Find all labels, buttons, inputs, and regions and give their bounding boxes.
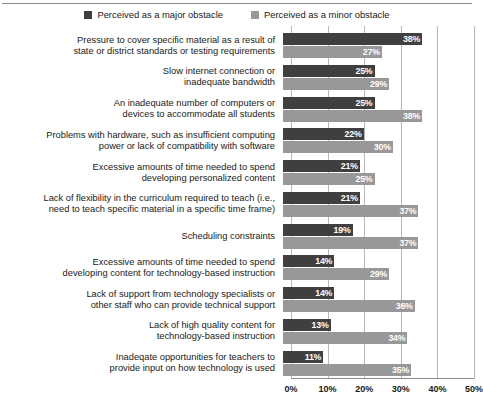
category-label: Scheduling constraints <box>0 231 283 242</box>
bar-value-label: 35% <box>392 365 411 375</box>
x-tick-label: 40% <box>428 384 446 394</box>
bar-value-label: 25% <box>355 66 374 76</box>
legend-entry-minor: Perceived as a minor obstacle <box>251 10 390 20</box>
bar-value-label: 14% <box>315 288 334 298</box>
x-tick-label: 20% <box>355 384 373 394</box>
category-label: Lack of support from technology speciali… <box>0 289 283 311</box>
category-label: Lack of flexibility in the curriculum re… <box>0 193 283 215</box>
bar-value-label: 21% <box>341 193 360 203</box>
bar-major-obstacle: 14% <box>283 255 334 267</box>
category-label-line: Lack of support from technology speciali… <box>0 289 275 300</box>
bar-major-obstacle: 25% <box>283 97 375 109</box>
category-label: Excessive amounts of time needed to spen… <box>0 162 283 184</box>
category-label-line: provide input on how technology is used <box>0 363 275 374</box>
category-label: An inadequate number of computers ordevi… <box>0 98 283 120</box>
category-label: Inadeqate opportunities for teachers top… <box>0 352 283 374</box>
legend-swatch-minor-icon <box>251 11 259 19</box>
bar-value-label: 38% <box>403 34 422 44</box>
row-bars: 11%35% <box>283 342 466 385</box>
category-label-line: Excessive amounts of time needed to spen… <box>0 257 275 268</box>
legend-label-minor: Perceived as a minor obstacle <box>264 10 390 20</box>
bar-major-obstacle: 21% <box>283 160 360 172</box>
category-label: Pressure to cover specific material as a… <box>0 35 283 57</box>
bar-value-label: 14% <box>315 256 334 266</box>
category-label-line: Pressure to cover specific material as a… <box>0 35 275 46</box>
bar-minor-obstacle: 35% <box>283 364 411 376</box>
category-label: Excessive amounts of time needed to spen… <box>0 257 283 279</box>
chart-legend: Perceived as a major obstacle Perceived … <box>0 8 474 22</box>
bar-value-label: 21% <box>341 161 360 171</box>
bar-major-obstacle: 19% <box>283 224 353 236</box>
category-label-line: Inadeqate opportunities for teachers to <box>0 352 275 363</box>
legend-entry-major: Perceived as a major obstacle <box>84 10 223 20</box>
bar-value-label: 11% <box>305 352 324 362</box>
category-label-line: Excessive amounts of time needed to spen… <box>0 162 275 173</box>
bar-value-label: 25% <box>355 98 374 108</box>
category-label-line: Slow internet connection or <box>0 66 275 77</box>
bar-major-obstacle: 38% <box>283 33 422 45</box>
legend-label-major: Perceived as a major obstacle <box>97 10 223 20</box>
top-divider-rule <box>2 3 472 4</box>
x-axis-tick-labels: 0%10%20%30%40%50% <box>291 384 474 398</box>
bar-value-label: 22% <box>345 129 364 139</box>
category-label-line: Scheduling constraints <box>0 231 275 242</box>
bar-major-obstacle: 14% <box>283 287 334 299</box>
gridline <box>474 26 475 379</box>
bar-major-obstacle: 22% <box>283 128 364 140</box>
category-label: Lack of high quality content fortechnolo… <box>0 320 283 342</box>
category-label: Problems with hardware, such as insuffic… <box>0 130 283 152</box>
bar-major-obstacle: 11% <box>283 351 323 363</box>
category-label-line: An inadequate number of computers or <box>0 98 275 109</box>
category-label-line: Problems with hardware, such as insuffic… <box>0 130 275 141</box>
x-tick-label: 50% <box>465 384 483 394</box>
x-tick-label: 30% <box>392 384 410 394</box>
bar-value-label: 19% <box>334 225 353 235</box>
category-label-line: Lack of flexibility in the curriculum re… <box>0 193 275 204</box>
legend-swatch-major-icon <box>84 11 92 19</box>
x-tick-label: 0% <box>284 384 297 394</box>
category-label-line: Lack of high quality content for <box>0 320 275 331</box>
chart-row: Inadeqate opportunities for teachers top… <box>0 342 474 385</box>
bar-rows: Pressure to cover specific material as a… <box>0 26 474 379</box>
category-label: Slow internet connection orinadequate ba… <box>0 66 283 88</box>
x-tick-label: 10% <box>319 384 337 394</box>
bar-major-obstacle: 25% <box>283 65 375 77</box>
bar-major-obstacle: 21% <box>283 192 360 204</box>
bar-major-obstacle: 13% <box>283 319 331 331</box>
bar-value-label: 13% <box>312 320 331 330</box>
